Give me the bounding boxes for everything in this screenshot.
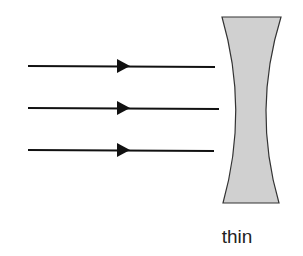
diagram-canvas: thin — [0, 0, 303, 256]
ray-2 — [28, 101, 219, 115]
ray-1 — [28, 59, 215, 73]
arrow-icon — [117, 101, 130, 115]
ray-3 — [28, 143, 214, 157]
concave-lens — [222, 17, 281, 203]
lens-diagram — [0, 0, 303, 256]
lens-caption: thin — [212, 226, 262, 248]
arrow-icon — [117, 59, 130, 73]
arrow-icon — [117, 143, 130, 157]
